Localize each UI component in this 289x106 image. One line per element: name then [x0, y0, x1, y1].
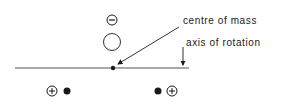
axis-of-rotation-label: axis of rotation: [186, 37, 261, 48]
top-atom-circle: [104, 34, 121, 51]
left-atom-dot: [64, 88, 71, 95]
molecule-rotation-diagram: centre of mass axis of rotation: [0, 0, 289, 106]
positive-charge-right-icon: [167, 86, 177, 96]
centre-of-mass-dot: [111, 66, 115, 70]
right-atom-dot: [155, 88, 162, 95]
negative-charge-icon: [107, 15, 117, 25]
centre-of-mass-label: centre of mass: [183, 15, 257, 26]
centre-of-mass-arrow: [118, 27, 179, 64]
positive-charge-left-icon: [47, 86, 57, 96]
